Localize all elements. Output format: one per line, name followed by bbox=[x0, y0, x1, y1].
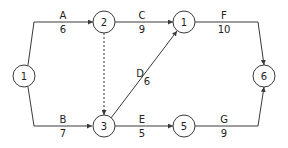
edge-d-duration: 6 bbox=[144, 76, 150, 87]
node-4-label: 1 bbox=[181, 17, 187, 28]
edge-e-duration: 5 bbox=[139, 128, 145, 139]
edge-f-duration: 10 bbox=[218, 24, 231, 35]
edge-b-duration: 7 bbox=[60, 128, 66, 139]
node-1-label: 1 bbox=[21, 71, 27, 82]
node-3: 3 bbox=[93, 115, 115, 137]
edge-g-name: G bbox=[220, 114, 228, 125]
edge-d bbox=[111, 31, 177, 118]
edge-b-name: B bbox=[60, 114, 67, 125]
node-3-label: 3 bbox=[101, 121, 107, 132]
edge-c-duration: 9 bbox=[139, 24, 145, 35]
edge-a-name: A bbox=[60, 10, 67, 21]
edge-g bbox=[195, 87, 264, 126]
network-diagram: A 6 B 7 C 9 D 6 E 5 F 10 G 9 1 2 1 3 5 6 bbox=[0, 0, 288, 148]
node-5: 5 bbox=[173, 115, 195, 137]
edge-g-duration: 9 bbox=[221, 128, 227, 139]
node-5-label: 5 bbox=[181, 121, 187, 132]
edge-c-name: C bbox=[139, 10, 146, 21]
node-2-label: 2 bbox=[101, 17, 107, 28]
node-2: 2 bbox=[93, 11, 115, 33]
edge-a-duration: 6 bbox=[60, 24, 66, 35]
node-6: 6 bbox=[253, 65, 275, 87]
node-1: 1 bbox=[13, 65, 35, 87]
node-4: 1 bbox=[173, 11, 195, 33]
edge-e-name: E bbox=[139, 114, 145, 125]
node-6-label: 6 bbox=[261, 71, 267, 82]
edge-f-name: F bbox=[221, 10, 227, 21]
